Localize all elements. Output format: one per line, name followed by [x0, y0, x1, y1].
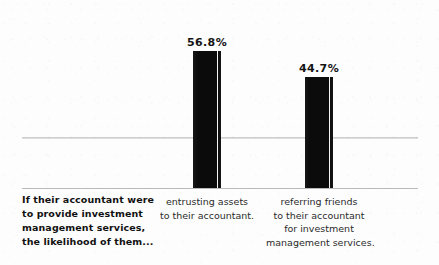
category-2-line-4: management services. [266, 236, 372, 250]
row-caption-line-2: to provide investment [22, 207, 172, 221]
category-1-line-1: entrusting assets [157, 195, 257, 209]
bar-chart: 56.8% 44.7% If their accountant were to … [0, 0, 439, 265]
bar-entrusting-assets[interactable] [193, 51, 221, 188]
bar-referring-friends[interactable] [305, 77, 333, 188]
row-caption-line-1: If their accountant were [22, 193, 172, 207]
bar-value-label-1: 56.8% [177, 36, 237, 49]
row-caption-line-4: the likelihood of them... [22, 235, 172, 249]
bar-value-label-2: 44.7% [289, 62, 349, 75]
category-label-entrusting-assets: entrusting assets to their accountant. [157, 195, 257, 222]
axis-baseline [22, 188, 418, 189]
category-2-line-3: for investment [266, 222, 372, 236]
category-2-line-1: referring friends [266, 195, 372, 209]
row-caption: If their accountant were to provide inve… [22, 193, 172, 249]
category-label-referring-friends: referring friends to their accountant fo… [266, 195, 372, 249]
row-caption-line-3: management services, [22, 221, 172, 235]
category-2-line-2: to their accountant [266, 209, 372, 223]
category-1-line-2: to their accountant. [157, 209, 257, 223]
